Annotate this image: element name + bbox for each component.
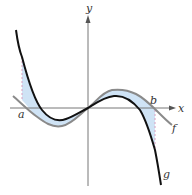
curve-f-label: f <box>171 122 178 135</box>
y-axis-arrow-icon <box>86 15 91 23</box>
y-axis-label: y <box>85 2 93 15</box>
curve-g-label: g <box>163 168 170 181</box>
point-a-label: a <box>18 108 25 121</box>
x-axis-arrow-icon <box>169 106 176 111</box>
x-axis-label: x <box>178 102 185 115</box>
diagram: y x a b f g <box>0 0 192 195</box>
point-b-label: b <box>150 94 157 107</box>
